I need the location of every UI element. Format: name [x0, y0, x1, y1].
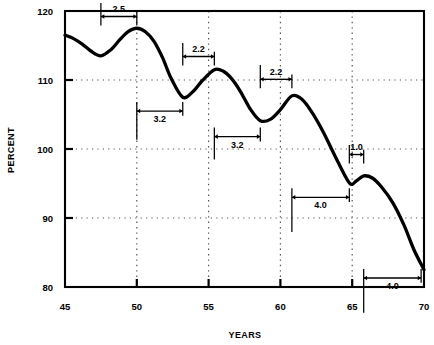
y-tick-label: 100: [37, 144, 53, 155]
annotation-label: 3.2: [154, 114, 167, 124]
annotation-label: 4.0: [386, 281, 399, 291]
annotation-label: 1.0: [350, 142, 363, 152]
y-tick-label: 90: [42, 213, 53, 224]
y-tick-label: 120: [37, 6, 53, 17]
x-tick-label: 65: [347, 301, 358, 312]
y-axis-title: PERCENT: [6, 127, 16, 173]
x-tick-label: 70: [419, 301, 430, 312]
y-tick-label: 80: [42, 282, 53, 293]
y-tick-label: 110: [38, 75, 53, 86]
annotation-label: 3.2: [231, 140, 244, 150]
annotation-label: 2.2: [192, 44, 205, 54]
chart-figure: 8090100110120 455055606570 2.53.22.23.22…: [0, 0, 434, 345]
x-axis-title: YEARS: [228, 330, 261, 340]
annotation-label: 2.2: [270, 67, 283, 77]
x-tick-label: 55: [203, 301, 214, 312]
annotation-label: 2.5: [113, 4, 126, 14]
x-tick-label: 50: [132, 301, 143, 312]
x-tick-label: 60: [275, 301, 286, 312]
annotation-label: 4.0: [314, 200, 327, 210]
x-tick-label: 45: [60, 301, 71, 312]
chart-canvas: 8090100110120 455055606570 2.53.22.23.22…: [0, 0, 434, 345]
